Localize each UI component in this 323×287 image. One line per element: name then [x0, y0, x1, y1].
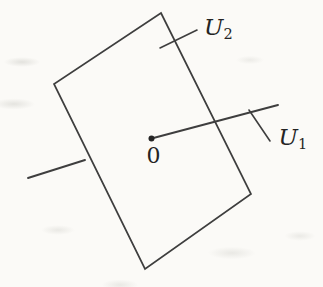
u1-line — [152, 105, 279, 139]
figure-canvas: 0 U2 U1 — [0, 0, 323, 287]
u1-label-leader — [249, 110, 270, 141]
u1-label-base: U — [279, 124, 300, 150]
origin-dot — [149, 136, 155, 142]
u2-label-subscript: 2 — [223, 26, 232, 42]
origin-label: 0 — [147, 143, 161, 168]
u1-label: U1 — [279, 124, 308, 152]
u1-label-subscript: 1 — [298, 136, 307, 152]
u2-label-leader — [160, 30, 197, 48]
subspace-diagram: 0 U2 U1 — [0, 0, 323, 287]
u1-line-hidden-part — [28, 160, 85, 178]
u2-label-base: U — [204, 14, 225, 40]
u2-label: U2 — [204, 14, 233, 42]
